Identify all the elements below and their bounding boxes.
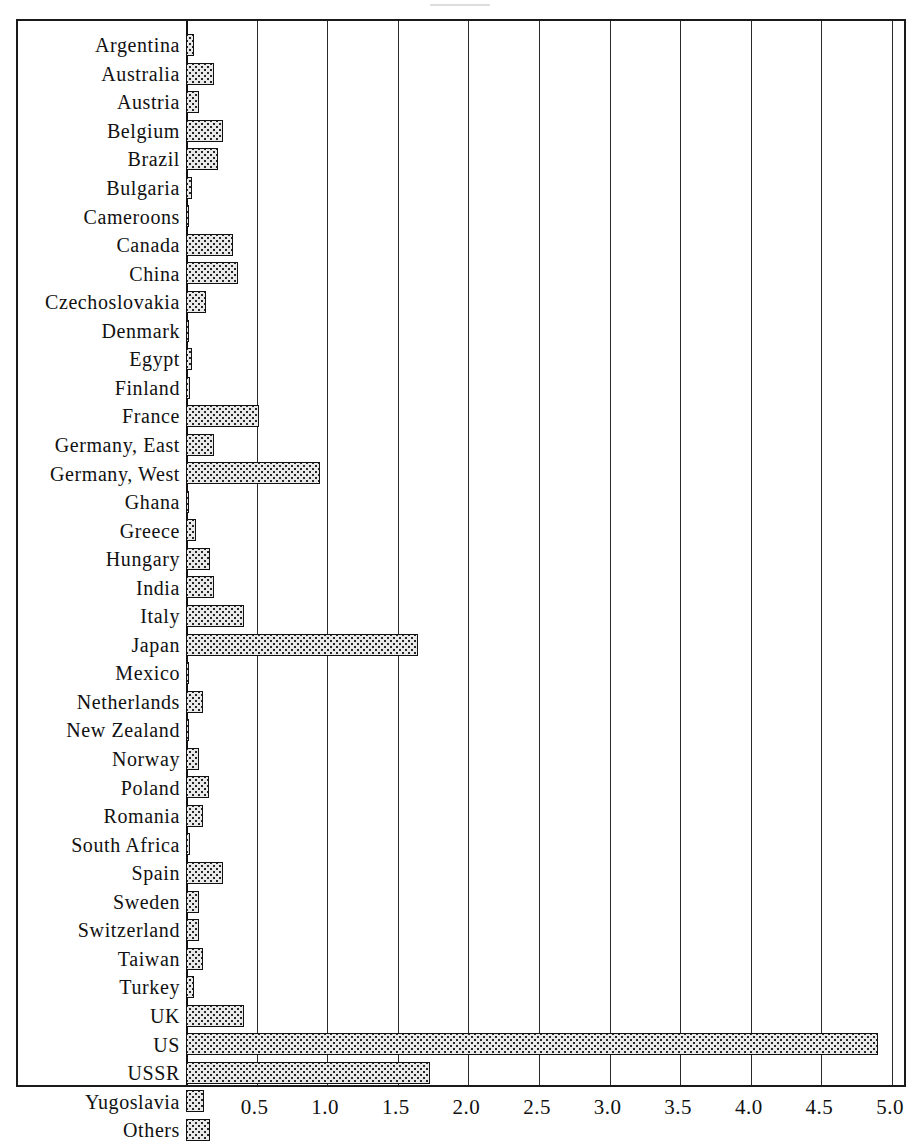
bar-germany-west <box>186 462 320 484</box>
bar-netherlands <box>186 691 203 713</box>
bar-row: Switzerland <box>18 916 904 945</box>
x-tick-label: 4.5 <box>806 1095 834 1120</box>
bar-row: Norway <box>18 745 904 774</box>
bar-finland <box>186 377 190 399</box>
category-label: Germany, West <box>18 464 180 484</box>
bar-row: US <box>18 1030 904 1059</box>
bar-austria <box>186 91 199 113</box>
bar-south-africa <box>186 833 190 855</box>
bar-row: Sweden <box>18 888 904 917</box>
category-label: Greece <box>18 521 180 541</box>
category-label: Spain <box>18 863 180 883</box>
bar-row: Czechoslovakia <box>18 288 904 317</box>
bar-mexico <box>186 662 189 684</box>
bar-australia <box>186 63 214 85</box>
bar-poland <box>186 776 209 798</box>
bar-row: Germany, West <box>18 459 904 488</box>
bar-row: Romania <box>18 802 904 831</box>
bar-row: New Zealand <box>18 716 904 745</box>
x-tick-label: 1.0 <box>311 1095 339 1120</box>
bar-row: Ghana <box>18 488 904 517</box>
bar-rows: ArgentinaAustraliaAustriaBelgiumBrazilBu… <box>18 21 904 1085</box>
x-tick-label: 5.0 <box>876 1095 904 1120</box>
bar-row: Italy <box>18 602 904 631</box>
bar-belgium <box>186 120 223 142</box>
x-tick-label: 3.0 <box>594 1095 622 1120</box>
category-label: France <box>18 406 180 426</box>
plot-area: ArgentinaAustraliaAustriaBelgiumBrazilBu… <box>16 19 906 1087</box>
category-label: Austria <box>18 92 180 112</box>
x-axis: 0.51.01.52.02.53.03.54.04.55.0 <box>16 1087 906 1147</box>
bar-row: China <box>18 259 904 288</box>
bar-india <box>186 576 214 598</box>
bar-row: Spain <box>18 859 904 888</box>
category-label: UK <box>18 1006 180 1026</box>
category-label: Romania <box>18 806 180 826</box>
bar-bulgaria <box>186 177 192 199</box>
bar-row: Denmark <box>18 317 904 346</box>
bar-row: Argentina <box>18 31 904 60</box>
bar-new-zealand <box>186 719 189 741</box>
bar-cameroons <box>186 205 189 227</box>
bar-row: Austria <box>18 88 904 117</box>
x-tick-label: 4.0 <box>735 1095 763 1120</box>
bar-row: Finland <box>18 374 904 403</box>
bar-denmark <box>186 320 189 342</box>
x-tick-label: 2.0 <box>453 1095 481 1120</box>
bar-china <box>186 262 238 284</box>
category-label: Denmark <box>18 321 180 341</box>
bar-row: USSR <box>18 1059 904 1088</box>
x-tick-label: 2.5 <box>523 1095 551 1120</box>
bar-switzerland <box>186 919 199 941</box>
bar-row: Netherlands <box>18 688 904 717</box>
x-tick-label: 3.5 <box>664 1095 692 1120</box>
category-label: South Africa <box>18 835 180 855</box>
bar-czechoslovakia <box>186 291 206 313</box>
bar-row: Canada <box>18 231 904 260</box>
bar-france <box>186 405 259 427</box>
bar-ghana <box>186 491 189 513</box>
category-label: Japan <box>18 635 180 655</box>
bar-row: Cameroons <box>18 202 904 231</box>
bar-row: Taiwan <box>18 945 904 974</box>
category-label: Turkey <box>18 977 180 997</box>
scan-artifact <box>430 4 490 6</box>
category-label: Australia <box>18 64 180 84</box>
category-label: Italy <box>18 606 180 626</box>
bar-row: Turkey <box>18 973 904 1002</box>
category-label: India <box>18 578 180 598</box>
bar-uk <box>186 1005 244 1027</box>
x-tick-label: 0.5 <box>241 1095 269 1120</box>
category-label: Canada <box>18 235 180 255</box>
x-tick-label: 1.5 <box>382 1095 410 1120</box>
category-label: Cameroons <box>18 207 180 227</box>
bar-japan <box>186 634 418 656</box>
bar-italy <box>186 605 244 627</box>
bar-row: Greece <box>18 516 904 545</box>
bar-row: Germany, East <box>18 431 904 460</box>
bar-egypt <box>186 348 192 370</box>
category-label: Sweden <box>18 892 180 912</box>
bar-row: France <box>18 402 904 431</box>
category-label: Norway <box>18 749 180 769</box>
bar-hungary <box>186 548 210 570</box>
bar-turkey <box>186 976 194 998</box>
category-label: Czechoslovakia <box>18 292 180 312</box>
category-label: Germany, East <box>18 435 180 455</box>
bar-row: Bulgaria <box>18 174 904 203</box>
bar-germany-east <box>186 434 214 456</box>
category-label: China <box>18 264 180 284</box>
bar-row: Egypt <box>18 345 904 374</box>
bar-canada <box>186 234 233 256</box>
bar-taiwan <box>186 948 203 970</box>
category-label: Belgium <box>18 121 180 141</box>
bar-row: South Africa <box>18 830 904 859</box>
bar-sweden <box>186 891 199 913</box>
category-label: Bulgaria <box>18 178 180 198</box>
category-label: USSR <box>18 1063 180 1083</box>
bar-norway <box>186 748 199 770</box>
category-label: Finland <box>18 378 180 398</box>
category-label: Argentina <box>18 35 180 55</box>
bar-row: UK <box>18 1002 904 1031</box>
category-label: Taiwan <box>18 949 180 969</box>
